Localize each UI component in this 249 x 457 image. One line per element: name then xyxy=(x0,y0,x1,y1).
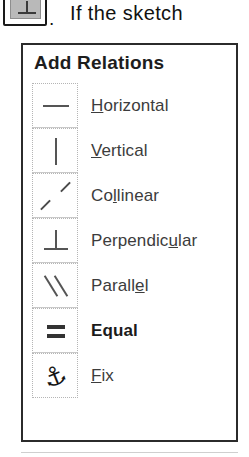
perpendicular-horizontal-stroke xyxy=(18,12,36,14)
perpendicular-toolbar-icon[interactable] xyxy=(3,0,47,26)
document-sentence: If the sketch xyxy=(70,2,183,25)
relation-item-vertical[interactable]: Vertical xyxy=(32,128,230,173)
icon-cell xyxy=(32,263,78,308)
page-rule xyxy=(21,452,238,453)
document-text-line: . If the sketch xyxy=(0,0,249,36)
panel-title: Add Relations xyxy=(34,52,164,74)
icon-cell xyxy=(32,83,78,128)
relation-item-fix[interactable]: ⚓ Fix xyxy=(32,353,230,398)
relation-label-collinear: Collinear xyxy=(91,186,159,206)
perpendicular-relation-icon xyxy=(33,219,77,262)
relation-label-perpendicular: Perpendicular xyxy=(91,231,197,251)
relation-label-equal: Equal xyxy=(91,321,138,341)
relation-label-horizontal: Horizontal xyxy=(91,96,169,116)
horizontal-relation-icon xyxy=(33,84,77,127)
icon-cell xyxy=(32,128,78,173)
fix-anchor-icon: ⚓ xyxy=(33,354,77,397)
equal-relation-icon xyxy=(33,309,77,352)
relation-item-equal[interactable]: Equal xyxy=(32,308,230,353)
icon-cell xyxy=(32,218,78,263)
add-relations-panel: Add Relations Horizontal Vertical xyxy=(21,43,238,442)
relation-item-collinear[interactable]: Collinear xyxy=(32,173,230,218)
button-face xyxy=(10,0,41,19)
icon-cell xyxy=(32,173,78,218)
relation-item-horizontal[interactable]: Horizontal xyxy=(32,83,230,128)
relation-label-vertical: Vertical xyxy=(91,141,148,161)
relation-label-parallel: Parallel xyxy=(91,276,149,296)
vertical-relation-icon xyxy=(33,129,77,172)
icon-cell xyxy=(32,308,78,353)
collinear-relation-icon xyxy=(33,174,77,217)
relation-label-fix: Fix xyxy=(91,366,114,386)
relation-item-parallel[interactable]: Parallel xyxy=(32,263,230,308)
relations-list: Horizontal Vertical Collinear xyxy=(32,83,230,398)
relation-item-perpendicular[interactable]: Perpendicular xyxy=(32,218,230,263)
sentence-period: . xyxy=(49,9,54,29)
parallel-relation-icon xyxy=(33,264,77,307)
icon-cell: ⚓ xyxy=(32,353,78,398)
